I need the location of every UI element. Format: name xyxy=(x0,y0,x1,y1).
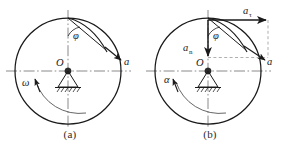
panel-a-caption: (a) xyxy=(0,128,140,140)
angle-phi-label: φ xyxy=(73,30,79,41)
pin-support-hatching xyxy=(197,88,220,93)
acceleration-vector-a-label: a xyxy=(124,56,129,67)
angular-velocity-omega-label: ω xyxy=(22,77,29,88)
panel-a: O φ a ω (a) xyxy=(0,0,140,154)
svg-text:a: a xyxy=(243,5,248,16)
svg-text:a: a xyxy=(183,42,188,53)
pin-support-hatching xyxy=(57,88,80,93)
resultant-acceleration-arrow xyxy=(244,46,265,60)
center-point-O-label: O xyxy=(196,57,204,68)
panel-b: O φ a α a τ a n (b) xyxy=(140,0,280,154)
svg-text:τ: τ xyxy=(249,11,252,19)
tangential-acceleration-a-tau-label: a τ xyxy=(243,5,252,19)
figure-container: O φ a ω (a) xyxy=(0,0,281,154)
normal-acceleration-a-n-label: a n xyxy=(183,42,193,56)
panel-b-caption: (b) xyxy=(140,128,280,140)
angular-velocity-arrowhead xyxy=(35,79,40,92)
angle-phi-label: φ xyxy=(213,30,219,41)
resultant-acceleration-a-label: a xyxy=(267,56,272,67)
svg-text:n: n xyxy=(189,48,193,56)
angular-acceleration-alpha-label: α xyxy=(164,74,170,85)
center-point-O-label: O xyxy=(56,57,64,68)
